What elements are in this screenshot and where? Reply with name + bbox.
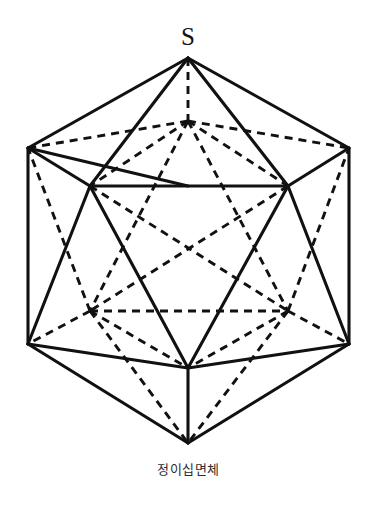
icosahedron-figure: S 정이십면체 <box>0 0 377 510</box>
icosahedron-diagram: S <box>0 0 377 510</box>
apex-vertex-label: S <box>181 23 195 50</box>
figure-caption: 정이십면체 <box>0 459 377 478</box>
